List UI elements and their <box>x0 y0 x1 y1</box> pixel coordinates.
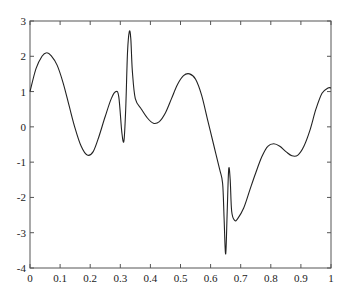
y-tick-label: 2 <box>21 50 27 62</box>
x-tick-label: 0.3 <box>113 272 127 284</box>
x-tick-label: 0.2 <box>83 272 97 284</box>
line-chart: 00.10.20.30.40.50.60.70.80.91 3210-1-2-3… <box>0 0 349 296</box>
y-tick-label: 3 <box>21 15 27 27</box>
y-tick-label: -3 <box>17 227 27 239</box>
x-tick-label: 0.7 <box>234 272 248 284</box>
x-tick-label: 0.4 <box>144 272 158 284</box>
y-tick-label: -1 <box>17 156 26 168</box>
axes-box <box>30 21 331 268</box>
x-tick-label: 0.1 <box>53 272 67 284</box>
x-tick-label: 0.9 <box>294 272 308 284</box>
x-tick-label: 1 <box>328 272 334 284</box>
y-tick-label: 1 <box>21 86 27 98</box>
x-tick-label: 0.5 <box>174 272 188 284</box>
y-tick-label: -4 <box>17 262 27 274</box>
y-tick-label: -2 <box>17 191 26 203</box>
x-tick-label: 0.8 <box>264 272 278 284</box>
x-tick-label: 0.6 <box>204 272 218 284</box>
y-tick-label: 0 <box>21 121 27 133</box>
x-tick-label: 0 <box>27 272 33 284</box>
